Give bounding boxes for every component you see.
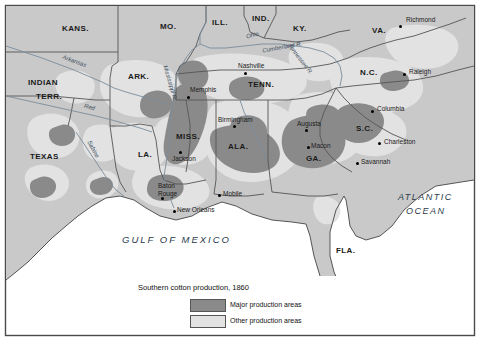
legend-swatch-major [190,299,226,312]
city-dot-augusta [305,129,308,132]
city-dot-macon [307,146,310,149]
legend-label-other: Other production areas [230,317,302,324]
city-dot-jackson [179,151,182,154]
map-figure: KANS. MO. ILL. IND. KY. VA. INDIAN TERR.… [0,0,480,355]
legend-swatch-other [190,315,226,328]
legend-title: Southern cotton production, 1860 [138,283,249,292]
legend-label-major: Major production areas [230,301,302,308]
city-dot-columbia [371,110,374,113]
city-dot-richmond [399,25,402,28]
city-dot-baton-rouge [161,197,164,200]
city-dot-raleigh [403,73,406,76]
city-dot-savannah [356,162,359,165]
city-dot-memphis [187,96,190,99]
city-dot-new-orleans [173,210,176,213]
city-dot-birmingham [233,125,236,128]
city-dot-nashville [244,72,247,75]
city-dot-charleston [378,142,381,145]
city-dot-mobile [218,194,221,197]
